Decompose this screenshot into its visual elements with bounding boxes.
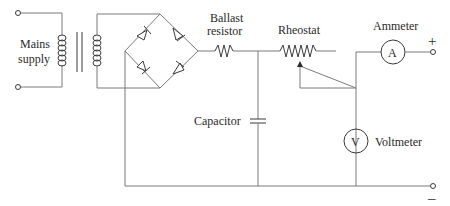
diode-icon [137,61,150,74]
negative-sign: – [427,190,436,206]
diode-icon [173,28,185,41]
ammeter: A Ammeter [356,19,430,186]
mains-label-2: supply [18,52,50,66]
ballast-resistor: Ballast resistor [198,11,280,57]
wiper-arrow-icon [297,61,303,67]
input-terminal-top [16,11,21,16]
voltmeter-label: Voltmeter [375,135,422,149]
secondary-coil [93,35,101,66]
input-terminal-bottom [16,85,21,90]
rheostat-label: Rheostat [278,23,321,37]
mains-label-1: Mains [20,37,50,51]
diode-icon [173,61,184,74]
mains-supply: Mains supply [16,11,63,90]
primary-coil [58,35,66,66]
circuit-diagram: Mains supply [0,0,450,206]
ballast-label-2: resistor [207,24,242,38]
bridge-rectifier [125,14,198,186]
rheostat: Rheostat [278,23,356,88]
voltmeter-symbol: V [351,135,360,149]
ballast-label-1: Ballast [210,11,244,25]
diode-icon [137,26,151,40]
capacitor-label: Capacitor [194,114,241,128]
transformer [58,14,160,88]
positive-terminal [431,50,436,55]
ammeter-symbol: A [388,46,397,60]
capacitor: Capacitor [194,51,266,186]
positive-sign: + [428,33,436,49]
ammeter-label: Ammeter [373,19,418,33]
negative-terminal [431,184,436,189]
